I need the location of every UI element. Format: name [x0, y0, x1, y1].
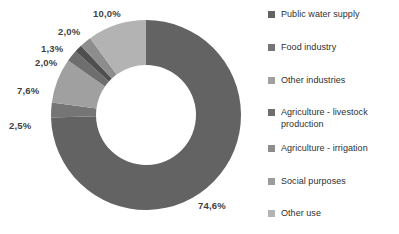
legend-item-label: Other industries	[281, 75, 345, 87]
legend-item-label: Public water supply	[281, 9, 360, 21]
slice-percentage-label: 7,6%	[17, 85, 39, 96]
legend-color-swatch-icon	[268, 178, 275, 185]
legend-item[interactable]: Public water supply	[268, 9, 399, 21]
chart-plot-area: 10,0%2,0%1,3%2,0%7,6%2,5%74,6%	[0, 0, 258, 234]
legend-item[interactable]: Food industry	[268, 42, 399, 54]
slice-percentage-label: 1,3%	[41, 43, 63, 54]
legend-color-swatch-icon	[268, 44, 275, 51]
legend-item-label: Food industry	[281, 42, 336, 54]
donut-slice-group	[51, 20, 241, 210]
chart-legend: Public water supplyFood industryOther in…	[268, 0, 399, 234]
slice-percentage-label: 2,0%	[35, 57, 57, 68]
legend-color-swatch-icon	[268, 11, 275, 18]
legend-item[interactable]: Other industries	[268, 75, 399, 87]
slice-percentage-label: 2,5%	[9, 120, 31, 131]
legend-item[interactable]: Agriculture - livestock production	[268, 107, 399, 130]
legend-item[interactable]: Agriculture - irrigation	[268, 143, 399, 155]
legend-item[interactable]: Social purposes	[268, 176, 399, 188]
slice-percentage-label: 74,6%	[198, 200, 226, 211]
slice-percentage-label: 10,0%	[93, 8, 121, 19]
legend-item[interactable]: Other use	[268, 208, 399, 220]
legend-color-swatch-icon	[268, 210, 275, 217]
legend-color-swatch-icon	[268, 109, 275, 116]
legend-item-label: Agriculture - livestock production	[281, 107, 399, 130]
legend-item-label: Social purposes	[281, 176, 346, 188]
legend-item-label: Agriculture - irrigation	[281, 143, 368, 155]
legend-color-swatch-icon	[268, 145, 275, 152]
legend-item-label: Other use	[281, 208, 321, 220]
donut-chart-svg	[0, 0, 258, 234]
donut-chart-page: 10,0%2,0%1,3%2,0%7,6%2,5%74,6% Public wa…	[0, 0, 399, 234]
slice-percentage-label: 2,0%	[58, 26, 80, 37]
legend-color-swatch-icon	[268, 77, 275, 84]
